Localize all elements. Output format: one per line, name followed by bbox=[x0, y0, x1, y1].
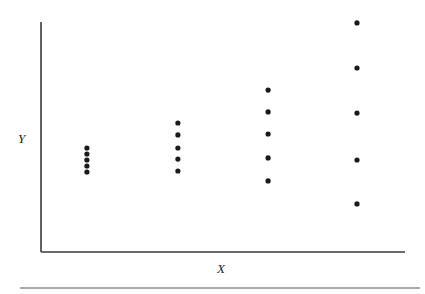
data-point bbox=[84, 151, 89, 156]
data-point bbox=[175, 168, 180, 173]
scatter-chart: Y X bbox=[0, 0, 425, 294]
data-point bbox=[175, 157, 180, 162]
data-point bbox=[266, 155, 271, 160]
data-point bbox=[175, 120, 180, 125]
data-point bbox=[175, 132, 180, 137]
data-points bbox=[84, 20, 359, 206]
data-point bbox=[354, 201, 359, 206]
data-point bbox=[266, 109, 271, 114]
data-point bbox=[354, 20, 359, 25]
x-axis-label: X bbox=[217, 261, 225, 277]
data-point bbox=[84, 169, 89, 174]
data-point bbox=[354, 65, 359, 70]
y-axis-label: Y bbox=[18, 131, 25, 147]
plot-area bbox=[0, 0, 425, 294]
data-point bbox=[84, 163, 89, 168]
data-point bbox=[266, 88, 271, 93]
data-point bbox=[84, 157, 89, 162]
data-point bbox=[354, 157, 359, 162]
data-point bbox=[84, 145, 89, 150]
data-point bbox=[354, 111, 359, 116]
data-point bbox=[175, 145, 180, 150]
data-point bbox=[266, 178, 271, 183]
data-point bbox=[266, 131, 271, 136]
